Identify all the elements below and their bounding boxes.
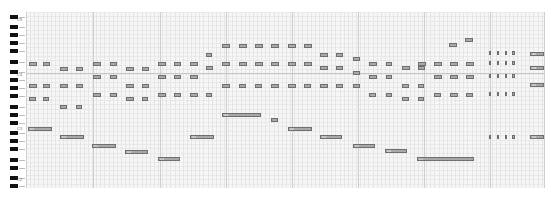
midi-note[interactable] <box>489 92 491 96</box>
midi-note[interactable] <box>320 66 328 70</box>
midi-note[interactable] <box>512 135 515 139</box>
midi-note[interactable] <box>418 84 424 88</box>
note-grid[interactable]: A4D4A3G2A2G2E2D2C2G2D3A2G2E2D2C2 <box>26 12 544 188</box>
midi-note[interactable]: A3 <box>530 83 544 87</box>
midi-note[interactable] <box>434 75 442 79</box>
midi-note[interactable] <box>110 93 117 97</box>
midi-note[interactable]: D2 <box>125 150 148 154</box>
midi-note[interactable] <box>512 61 515 65</box>
midi-note[interactable] <box>158 75 166 79</box>
black-key[interactable] <box>10 147 18 151</box>
midi-note[interactable] <box>304 62 312 66</box>
midi-note[interactable] <box>386 75 392 79</box>
midi-note[interactable] <box>255 44 263 48</box>
midi-note[interactable] <box>110 62 117 66</box>
midi-note[interactable] <box>353 71 360 75</box>
midi-note[interactable] <box>320 84 328 88</box>
black-key[interactable] <box>10 139 18 143</box>
midi-note[interactable] <box>505 135 507 139</box>
midi-note[interactable]: D4 <box>530 66 544 70</box>
black-key[interactable] <box>10 94 18 98</box>
midi-note[interactable] <box>505 61 507 65</box>
midi-note[interactable] <box>93 75 101 79</box>
midi-note[interactable] <box>222 62 230 66</box>
midi-note[interactable] <box>239 84 246 88</box>
midi-note[interactable]: G2 <box>320 135 342 139</box>
midi-note[interactable] <box>466 93 473 97</box>
midi-note[interactable] <box>497 92 499 96</box>
midi-note[interactable] <box>449 43 457 47</box>
midi-note[interactable] <box>126 84 134 88</box>
midi-note[interactable] <box>60 84 68 88</box>
midi-note[interactable] <box>465 38 473 42</box>
midi-note[interactable] <box>489 135 491 139</box>
black-key[interactable] <box>10 131 18 135</box>
midi-note[interactable]: G2 <box>190 135 214 139</box>
midi-note[interactable] <box>222 44 230 48</box>
midi-note[interactable] <box>158 62 166 66</box>
midi-note[interactable] <box>489 51 491 55</box>
midi-note[interactable] <box>512 51 515 55</box>
black-key[interactable] <box>10 158 18 162</box>
midi-note[interactable] <box>239 62 247 66</box>
midi-note[interactable] <box>336 84 343 88</box>
midi-note[interactable] <box>222 84 230 88</box>
midi-note[interactable] <box>288 84 296 88</box>
midi-note[interactable]: A4 <box>530 52 544 56</box>
midi-note[interactable] <box>402 84 409 88</box>
midi-note[interactable] <box>434 93 441 97</box>
midi-note[interactable] <box>206 66 213 70</box>
black-key[interactable] <box>10 33 18 37</box>
midi-note[interactable] <box>174 75 181 79</box>
black-key[interactable] <box>10 121 18 125</box>
midi-note[interactable] <box>271 84 279 88</box>
black-key[interactable] <box>10 105 18 109</box>
midi-note[interactable] <box>369 75 377 79</box>
midi-note[interactable] <box>450 75 458 79</box>
midi-note[interactable]: C2 <box>158 157 180 161</box>
midi-note[interactable]: G2 <box>60 135 84 139</box>
midi-note[interactable]: G2 <box>530 135 544 139</box>
midi-note[interactable] <box>60 67 68 71</box>
midi-note[interactable] <box>369 62 377 66</box>
midi-note[interactable] <box>369 93 376 97</box>
midi-note[interactable] <box>174 62 181 66</box>
midi-note[interactable] <box>512 74 515 78</box>
midi-note[interactable] <box>255 62 263 66</box>
midi-note[interactable] <box>288 62 296 66</box>
midi-note[interactable] <box>466 75 474 79</box>
midi-note[interactable]: E2 <box>353 144 375 148</box>
midi-note[interactable] <box>43 62 50 66</box>
midi-note[interactable] <box>489 61 491 65</box>
midi-note[interactable] <box>29 97 36 101</box>
midi-note[interactable] <box>271 62 279 66</box>
midi-note[interactable]: A2 <box>28 127 52 131</box>
black-key[interactable] <box>10 78 18 82</box>
midi-note[interactable] <box>174 93 181 97</box>
midi-note[interactable] <box>304 44 312 48</box>
midi-note[interactable]: A2 <box>288 127 312 131</box>
midi-note[interactable] <box>505 74 507 78</box>
midi-note[interactable] <box>505 51 507 55</box>
midi-note[interactable] <box>450 62 458 66</box>
midi-note[interactable] <box>489 74 491 78</box>
midi-note[interactable] <box>255 84 262 88</box>
midi-note[interactable] <box>29 62 37 66</box>
midi-note[interactable] <box>206 53 212 57</box>
black-key[interactable] <box>10 166 18 170</box>
midi-note[interactable] <box>450 93 458 97</box>
black-key[interactable] <box>10 49 18 53</box>
black-key[interactable] <box>10 25 18 29</box>
midi-note[interactable] <box>76 67 83 71</box>
midi-note[interactable]: E2 <box>92 144 116 148</box>
midi-note[interactable] <box>271 44 279 48</box>
midi-note[interactable] <box>497 74 499 78</box>
midi-note[interactable] <box>353 84 360 88</box>
midi-note[interactable] <box>402 66 410 70</box>
midi-note[interactable] <box>386 93 392 97</box>
midi-note[interactable] <box>142 97 148 101</box>
midi-note[interactable] <box>271 118 278 122</box>
midi-note[interactable] <box>76 105 82 109</box>
midi-note[interactable] <box>76 84 83 88</box>
midi-note[interactable]: C2 <box>417 157 474 161</box>
